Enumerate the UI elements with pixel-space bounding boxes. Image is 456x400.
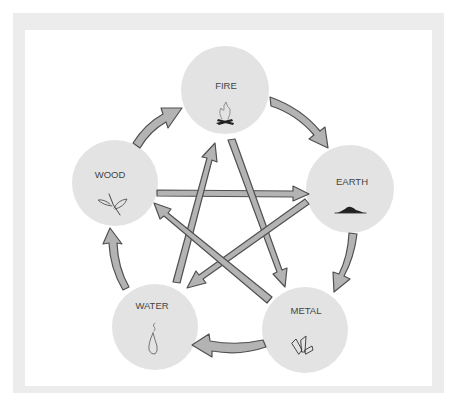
node-label-metal: METAL [291,305,322,316]
node-label-fire: FIRE [215,80,237,91]
arrow-earth-to-metal [333,233,357,292]
node-label-water: WATER [135,300,168,311]
arrow-fire-to-metal [228,139,287,287]
overcoming-star-arrows [154,139,309,303]
node-metal-circle [262,287,348,373]
node-earth-circle [306,145,394,233]
arrow-wood-to-fire [133,108,182,148]
arrow-wood-to-earth [157,186,309,201]
node-label-wood: WOOD [95,169,126,180]
arrow-metal-to-water [192,334,266,357]
arrow-water-to-fire [173,143,217,283]
node-water-circle [112,284,198,370]
node-label-earth: EARTH [336,176,368,187]
arrow-water-to-wood [103,228,129,290]
node-wood-circle [72,140,158,226]
arrow-fire-to-earth [270,97,328,148]
five-elements-diagram: FIRE EARTH METAL WATER WOOD [0,0,456,400]
